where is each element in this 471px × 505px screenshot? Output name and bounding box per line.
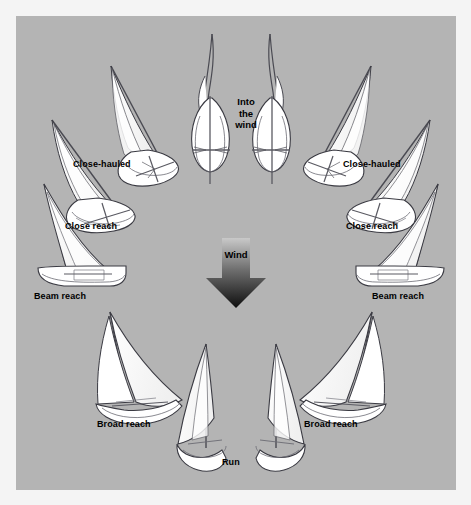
label-run: Run <box>222 457 240 468</box>
label-close-hauled-left: Close-hauled <box>73 159 131 170</box>
label-wind: Wind <box>221 249 251 260</box>
label-into-the-wind: Into the wind <box>222 96 270 131</box>
label-close-hauled-right: Close-hauled <box>343 159 401 170</box>
label-close-reach-left: Close reach <box>65 221 117 232</box>
label-broad-reach-left: Broad reach <box>97 419 151 430</box>
points-of-sail-figure: Into the wind Wind Close-hauled Close-ha… <box>0 0 471 505</box>
boat-run-right <box>256 344 305 471</box>
boat-broad-reach-left <box>96 312 182 424</box>
boat-broad-reach-right <box>300 312 386 424</box>
label-beam-reach-right: Beam reach <box>372 291 424 302</box>
diagram-panel: Into the wind Wind Close-hauled Close-ha… <box>16 16 456 490</box>
label-beam-reach-left: Beam reach <box>34 291 86 302</box>
label-close-reach-right: Close reach <box>346 221 398 232</box>
boat-run-left <box>177 344 226 471</box>
label-broad-reach-right: Broad reach <box>304 419 358 430</box>
